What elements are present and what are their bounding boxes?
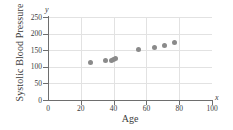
- x-axis-title: Age: [48, 113, 212, 124]
- x-tick-label: 20: [71, 104, 91, 113]
- x-tick-label: 80: [169, 104, 189, 113]
- data-point: [88, 60, 93, 65]
- x-axis-line: [48, 100, 213, 101]
- data-point: [136, 47, 141, 52]
- data-point: [103, 58, 108, 63]
- horizontal-gridline: [48, 83, 212, 84]
- horizontal-gridline: [48, 17, 212, 18]
- y-tick-label: 200: [20, 29, 42, 38]
- x-tick-label: 100: [202, 104, 222, 113]
- y-axis-line: [48, 16, 49, 101]
- vertical-gridline: [179, 17, 180, 100]
- scatter-plot-figure: Systolic Blood Pressure Age y x 05010015…: [0, 0, 233, 130]
- data-point: [113, 56, 118, 61]
- y-tick-label: 250: [20, 13, 42, 22]
- y-tick-label: 50: [20, 79, 42, 88]
- x-tick-label: 60: [136, 104, 156, 113]
- horizontal-gridline: [48, 50, 212, 51]
- y-tick-label: 100: [20, 62, 42, 71]
- data-point: [162, 43, 167, 48]
- x-tick-label: 0: [38, 104, 58, 113]
- x-axis-variable-symbol: x: [215, 93, 219, 102]
- vertical-gridline: [81, 17, 82, 100]
- horizontal-gridline: [48, 34, 212, 35]
- vertical-gridline: [146, 17, 147, 100]
- horizontal-gridline: [48, 67, 212, 68]
- x-tick-label: 40: [104, 104, 124, 113]
- y-axis-variable-symbol: y: [45, 5, 49, 14]
- y-tick-label: 150: [20, 46, 42, 55]
- data-point: [172, 40, 177, 45]
